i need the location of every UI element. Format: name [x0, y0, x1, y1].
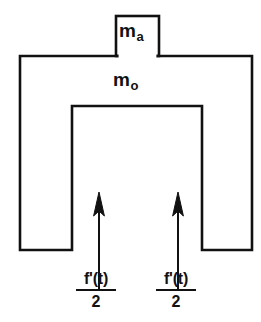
actuator-mass-subscript: a [136, 29, 144, 44]
main-mass-subscript: o [130, 78, 138, 93]
main-mass-label: mo [113, 70, 138, 92]
left-force-numerator: f'(t) [82, 270, 110, 289]
actuator-mass-label: ma [119, 21, 144, 43]
right-force-denominator: 2 [172, 291, 181, 311]
figure-canvas: ma mo f'(t) 2 f'(t) 2 [0, 0, 261, 322]
left-force-label: f'(t) 2 [76, 270, 116, 312]
mass-system-schematic [0, 0, 261, 322]
left-force-denominator: 2 [92, 291, 101, 311]
right-force-label: f'(t) 2 [156, 270, 196, 312]
right-force-numerator: f'(t) [162, 270, 190, 289]
actuator-mass-symbol: m [119, 20, 136, 41]
main-mass-symbol: m [113, 69, 130, 90]
block-seam-mask [119, 53, 157, 59]
